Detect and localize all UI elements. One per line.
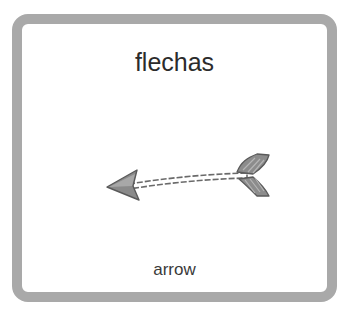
arrow-left-icon xyxy=(97,134,272,214)
flashcard: flechas arrow xyxy=(12,14,337,302)
card-caption: arrow xyxy=(22,260,327,280)
card-title: flechas xyxy=(22,47,327,77)
